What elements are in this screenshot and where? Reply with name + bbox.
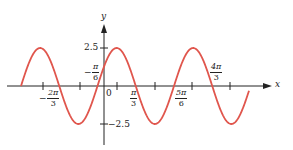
origin-label: 0	[106, 89, 112, 98]
y-axis-label: y	[101, 12, 106, 21]
plot-area	[0, 0, 293, 150]
y-axis-arrow-icon	[101, 24, 107, 33]
x-label-4pi-3: 4π 3	[210, 63, 222, 82]
y-tick-label-pos: 2.5	[84, 43, 98, 52]
sine-graph: x y 2.5 −2.5 0 − 2π 3 − π 6 π 3 5π 6 4π …	[0, 0, 293, 150]
y-tick-label-neg: −2.5	[108, 120, 130, 129]
x-label-pi-3: π 3	[130, 89, 137, 108]
x-axis-label: x	[275, 80, 280, 89]
x-label-5pi-6: 5π 6	[175, 89, 187, 108]
x-label-neg-pi-6: − π 6	[92, 63, 99, 82]
x-axis-arrow-icon	[263, 83, 272, 89]
x-label-neg-2pi-3: − 2π 3	[47, 89, 59, 108]
